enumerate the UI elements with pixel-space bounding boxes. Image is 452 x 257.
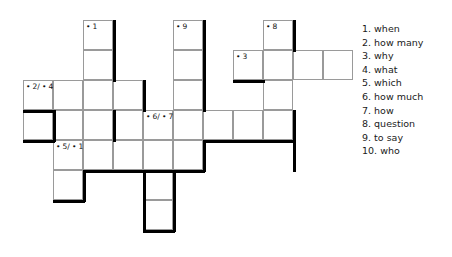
clue-text: question: [374, 118, 415, 129]
clue-item: 7. how: [362, 104, 450, 118]
crossword-cell[interactable]: • 3: [233, 50, 263, 80]
clue-item: 4. what: [362, 63, 450, 77]
cell-number-label: • 1: [86, 22, 97, 31]
clue-item: 5. which: [362, 76, 450, 90]
clue-number: 4.: [362, 64, 374, 75]
crossword-cell[interactable]: • 8: [263, 20, 293, 50]
crossword-cell[interactable]: • 6/ • 7: [143, 110, 173, 140]
crossword-cell[interactable]: [143, 170, 173, 200]
grid-heavy-border: [203, 140, 295, 143]
crossword-cell[interactable]: [173, 80, 203, 110]
crossword-cell[interactable]: [83, 140, 113, 170]
grid-heavy-border: [143, 80, 146, 112]
grid-heavy-border: [143, 170, 146, 232]
grid-heavy-border: [113, 20, 116, 82]
crossword-cell[interactable]: [53, 110, 83, 140]
cell-number-label: • 9: [176, 22, 187, 31]
cell-number-label: • 8: [266, 22, 277, 31]
clue-item: 6. how much: [362, 90, 450, 104]
clue-text: to say: [374, 132, 403, 143]
clue-item: 3. why: [362, 49, 450, 63]
crossword-grid: • 1• 9• 8• 3• 2/ • 4• 6/ • 7• 5/ • 1: [0, 0, 340, 257]
clue-number: 7.: [362, 105, 374, 116]
crossword-cell[interactable]: [263, 110, 293, 140]
crossword-cell[interactable]: [173, 140, 203, 170]
clue-list: 1. when2. how many3. why4. what5. which6…: [362, 22, 450, 158]
grid-heavy-border: [203, 140, 206, 172]
clue-text: who: [380, 145, 400, 156]
crossword-page: • 1• 9• 8• 3• 2/ • 4• 6/ • 7• 5/ • 1 1. …: [0, 0, 452, 257]
clue-text: how many: [374, 37, 423, 48]
clue-number: 8.: [362, 118, 374, 129]
clue-number: 10.: [362, 145, 380, 156]
grid-heavy-border: [83, 170, 86, 202]
clue-text: how much: [374, 91, 423, 102]
clue-number: 2.: [362, 37, 374, 48]
cell-number-label: • 5/ • 1: [56, 142, 83, 151]
crossword-cell[interactable]: [323, 50, 353, 80]
grid-heavy-border: [53, 200, 85, 203]
crossword-cell[interactable]: [23, 110, 53, 140]
crossword-cell[interactable]: • 5/ • 1: [53, 140, 83, 170]
crossword-cell[interactable]: [263, 80, 293, 110]
clue-number: 6.: [362, 91, 374, 102]
clue-item: 2. how many: [362, 36, 450, 50]
clue-text: how: [374, 105, 394, 116]
crossword-cell[interactable]: [173, 50, 203, 80]
crossword-cell[interactable]: [113, 110, 143, 140]
cell-number-label: • 3: [236, 52, 247, 61]
grid-heavy-border: [293, 20, 296, 52]
clue-item: 9. to say: [362, 131, 450, 145]
clue-item: 8. question: [362, 117, 450, 131]
clue-list-items: 1. when2. how many3. why4. what5. which6…: [362, 22, 450, 158]
clue-item: 10. who: [362, 144, 450, 158]
clue-number: 3.: [362, 50, 374, 61]
crossword-cell[interactable]: [203, 110, 233, 140]
crossword-cell[interactable]: [143, 200, 173, 230]
crossword-cell[interactable]: [113, 140, 143, 170]
grid-heavy-border: [53, 110, 56, 142]
crossword-cell[interactable]: [83, 80, 113, 110]
crossword-cell[interactable]: [113, 80, 143, 110]
grid-heavy-border: [113, 110, 116, 142]
crossword-cell[interactable]: [53, 170, 83, 200]
clue-number: 5.: [362, 77, 374, 88]
grid-heavy-border: [203, 20, 206, 112]
grid-heavy-border: [23, 140, 55, 143]
crossword-cell[interactable]: [293, 50, 323, 80]
crossword-cell[interactable]: [83, 110, 113, 140]
crossword-cell[interactable]: [233, 110, 263, 140]
clue-number: 9.: [362, 132, 374, 143]
clue-text: which: [374, 77, 402, 88]
clue-text: when: [374, 23, 400, 34]
clue-item: 1. when: [362, 22, 450, 36]
crossword-cell[interactable]: [53, 80, 83, 110]
crossword-cell[interactable]: • 1: [83, 20, 113, 50]
cell-number-label: • 6/ • 7: [146, 112, 173, 121]
crossword-cell[interactable]: • 2/ • 4: [23, 80, 53, 110]
grid-heavy-border: [23, 110, 55, 113]
crossword-cell[interactable]: [143, 140, 173, 170]
crossword-cell[interactable]: [173, 110, 203, 140]
cell-number-label: • 2/ • 4: [26, 82, 53, 91]
clue-text: why: [374, 50, 393, 61]
grid-heavy-border: [173, 170, 176, 232]
grid-heavy-border: [233, 80, 265, 83]
grid-heavy-border: [143, 230, 175, 233]
clue-text: what: [374, 64, 397, 75]
crossword-cell[interactable]: • 9: [173, 20, 203, 50]
clue-number: 1.: [362, 23, 374, 34]
crossword-cell[interactable]: [263, 50, 293, 80]
crossword-cell[interactable]: [83, 50, 113, 80]
